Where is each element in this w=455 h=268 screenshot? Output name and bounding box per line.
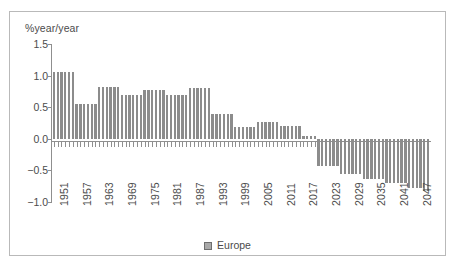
x-tick-mark (409, 142, 410, 147)
x-tick-label: 2047 (421, 182, 433, 206)
y-tick-label: −0.5 (27, 164, 48, 176)
y-tick-label: −1.0 (27, 196, 48, 208)
bar (166, 95, 168, 139)
bar (83, 104, 85, 139)
x-tick-mark (201, 142, 202, 147)
x-tick-mark (54, 142, 55, 147)
bar (177, 95, 179, 139)
x-tick-mark (300, 142, 301, 147)
bar (64, 72, 66, 138)
x-tick-mark (307, 142, 308, 147)
x-tick-mark (375, 142, 376, 147)
bar (98, 87, 100, 139)
x-tick-mark (122, 142, 123, 147)
bar (238, 127, 240, 139)
x-tick-mark (250, 142, 251, 147)
bar (94, 104, 96, 139)
x-tick-mark (209, 142, 210, 147)
bar (109, 87, 111, 139)
x-tick-mark (224, 142, 225, 147)
bar (291, 126, 293, 139)
x-tick-mark (126, 142, 127, 147)
bar (215, 114, 217, 139)
x-tick-mark (69, 142, 70, 147)
bar (57, 72, 59, 138)
y-tick-mark (48, 202, 52, 203)
x-tick-label: 1993 (217, 182, 229, 206)
bar (140, 95, 142, 139)
bar (106, 87, 108, 139)
bar (79, 104, 81, 139)
chart-figure: %year/year 1.51.00.50.0−0.5−1.0 19511957… (0, 0, 455, 268)
x-tick-mark (80, 142, 81, 147)
bar (185, 95, 187, 139)
bar (87, 104, 89, 139)
x-tick-mark (281, 142, 282, 147)
x-tick-label: 2011 (285, 183, 297, 206)
y-axis-ticks: 1.51.00.50.0−0.5−1.0 (0, 0, 48, 268)
bar (102, 87, 104, 139)
bar (272, 122, 274, 139)
x-tick-mark (296, 142, 297, 147)
x-tick-mark (88, 142, 89, 147)
bar (314, 136, 316, 139)
x-tick-mark (303, 142, 304, 147)
y-tick-label: 1.5 (33, 38, 48, 50)
x-tick-label: 2029 (353, 182, 365, 206)
x-tick-mark (364, 142, 365, 147)
x-tick-mark (95, 142, 96, 147)
x-tick-mark (356, 142, 357, 147)
x-tick-mark (402, 142, 403, 147)
x-tick-mark (318, 142, 319, 147)
x-tick-label: 1963 (103, 182, 115, 206)
x-tick-mark (198, 142, 199, 147)
x-tick-mark (277, 142, 278, 147)
x-tick-mark (77, 142, 78, 147)
x-tick-mark (103, 142, 104, 147)
x-tick-mark (232, 142, 233, 147)
x-tick-mark (179, 142, 180, 147)
bar (125, 95, 127, 139)
x-tick-mark (213, 142, 214, 147)
x-tick-mark (311, 142, 312, 147)
x-tick-label: 1999 (239, 182, 251, 206)
x-tick-mark (326, 142, 327, 147)
bar (310, 136, 312, 139)
x-tick-mark (383, 142, 384, 147)
x-tick-mark (387, 142, 388, 147)
x-tick-label: 1969 (126, 182, 138, 206)
x-tick-mark (205, 142, 206, 147)
bar (234, 127, 236, 139)
x-tick-mark (428, 142, 429, 147)
x-tick-mark (368, 142, 369, 147)
x-tick-label: 1987 (194, 182, 206, 206)
bar (117, 87, 119, 139)
x-tick-label: 1975 (149, 182, 161, 206)
x-tick-mark (258, 142, 259, 147)
bar (174, 95, 176, 139)
bar (249, 127, 251, 139)
x-tick-mark (133, 142, 134, 147)
bar (162, 90, 164, 139)
x-tick-mark (186, 142, 187, 147)
x-tick-mark (111, 142, 112, 147)
x-tick-mark (152, 142, 153, 147)
bar (219, 114, 221, 139)
x-tick-mark (228, 142, 229, 147)
bar (159, 90, 161, 139)
x-tick-mark (58, 142, 59, 147)
x-tick-mark (292, 142, 293, 147)
bar (155, 90, 157, 139)
x-tick-mark (360, 142, 361, 147)
x-tick-mark (424, 142, 425, 147)
x-tick-mark (322, 142, 323, 147)
bar (246, 127, 248, 139)
x-tick-mark (164, 142, 165, 147)
x-tick-mark (99, 142, 100, 147)
bar (181, 95, 183, 139)
x-tick-mark (114, 142, 115, 147)
x-tick-mark (341, 142, 342, 147)
x-tick-label: 1981 (171, 182, 183, 206)
bar (230, 114, 232, 139)
x-tick-mark (156, 142, 157, 147)
